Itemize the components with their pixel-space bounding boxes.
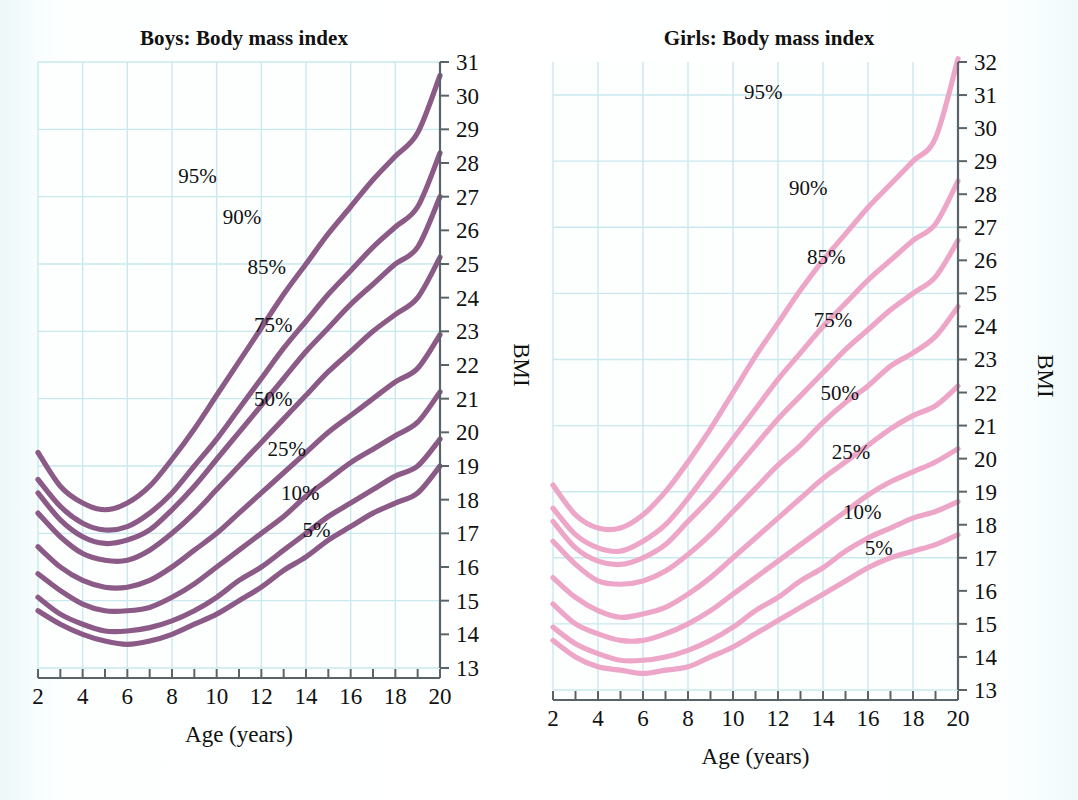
y-tick-label: 25 [456, 252, 479, 277]
percentile-label-25pct: 25% [832, 440, 871, 464]
y-tick-label: 27 [456, 185, 479, 210]
y-tick-label: 32 [974, 50, 997, 75]
x-tick-label: 14 [295, 684, 319, 709]
percentile-label-90pct: 90% [223, 205, 262, 229]
x-tick-label: 16 [339, 684, 362, 709]
x-tick-label: 4 [77, 684, 89, 709]
chart-plot-boys: 95%90%85%75%50%25%10%5%13141516171819202… [0, 0, 538, 790]
x-tick-label: 16 [857, 706, 880, 731]
percentile-label-95pct: 95% [178, 164, 217, 188]
y-axis-ticks: 1314151617181920212223242526272829303132 [958, 50, 998, 703]
percentile-label-90pct: 90% [789, 176, 828, 200]
x-tick-label: 12 [250, 684, 273, 709]
y-tick-label: 28 [974, 182, 997, 207]
y-tick-label: 15 [974, 612, 997, 637]
y-tick-label: 21 [974, 414, 997, 439]
y-tick-label: 18 [974, 513, 997, 538]
x-axis-ticks: 2468101214161820 [547, 691, 969, 731]
x-tick-label: 6 [122, 684, 134, 709]
y-tick-label: 17 [974, 546, 997, 571]
x-tick-label: 2 [547, 706, 559, 731]
y-tick-label: 30 [456, 84, 479, 109]
y-tick-label: 24 [456, 286, 480, 311]
x-axis-label: Age (years) [185, 722, 293, 747]
y-tick-label: 22 [456, 353, 479, 378]
x-tick-label: 4 [592, 706, 604, 731]
y-tick-label: 15 [456, 589, 479, 614]
x-tick-label: 20 [947, 706, 970, 731]
percentile-label-25pct: 25% [268, 437, 307, 461]
y-tick-label: 30 [974, 116, 997, 141]
percentile-label-10pct: 10% [281, 481, 320, 505]
percentile-label-75pct: 75% [814, 308, 853, 332]
y-tick-label: 23 [974, 347, 997, 372]
y-tick-label: 16 [456, 555, 479, 580]
y-tick-label: 22 [974, 381, 997, 406]
y-tick-label: 27 [974, 215, 997, 240]
y-tick-label: 14 [456, 622, 480, 647]
chart-title-girls: Girls: Body mass index [530, 26, 1008, 51]
x-tick-label: 8 [166, 684, 178, 709]
y-tick-label: 29 [456, 117, 479, 142]
x-tick-label: 12 [767, 706, 790, 731]
y-tick-label: 13 [456, 656, 479, 681]
x-tick-label: 2 [32, 684, 44, 709]
x-tick-label: 6 [637, 706, 649, 731]
y-tick-label: 24 [974, 314, 998, 339]
percentile-label-50pct: 50% [254, 387, 293, 411]
y-tick-label: 25 [974, 281, 997, 306]
y-tick-label: 20 [974, 447, 997, 472]
y-tick-label: 17 [456, 521, 479, 546]
x-tick-label: 18 [384, 684, 407, 709]
percentile-label-50pct: 50% [821, 381, 860, 405]
y-tick-label: 29 [974, 149, 997, 174]
bmi-charts-container: Boys: Body mass index 95%90%85%75%50%25%… [0, 0, 1078, 800]
chart-boys: Boys: Body mass index 95%90%85%75%50%25%… [0, 0, 538, 800]
y-tick-label: 13 [974, 678, 997, 703]
y-axis-label: BMI [1033, 354, 1058, 397]
percentile-label-85pct: 85% [247, 255, 286, 279]
x-axis-ticks: 2468101214161820 [32, 669, 451, 709]
x-tick-label: 10 [205, 684, 228, 709]
y-tick-label: 14 [974, 645, 998, 670]
y-tick-label: 26 [974, 248, 997, 273]
percentile-label-5pct: 5% [865, 536, 893, 560]
percentile-label-5pct: 5% [303, 518, 331, 542]
y-tick-label: 19 [456, 454, 479, 479]
y-tick-label: 28 [456, 151, 479, 176]
x-tick-label: 10 [722, 706, 745, 731]
plot-background [553, 62, 958, 690]
percentile-label-95pct: 95% [744, 80, 783, 104]
y-tick-label: 16 [974, 579, 997, 604]
chart-plot-girls: 95%90%85%75%50%25%10%5%13141516171819202… [520, 0, 1078, 790]
percentile-label-85pct: 85% [807, 245, 846, 269]
y-tick-label: 20 [456, 420, 479, 445]
y-tick-label: 21 [456, 387, 479, 412]
y-tick-label: 23 [456, 319, 479, 344]
percentile-label-75pct: 75% [254, 313, 293, 337]
y-tick-label: 31 [974, 83, 997, 108]
y-tick-label: 19 [974, 480, 997, 505]
chart-girls: Girls: Body mass index 95%90%85%75%50%25… [520, 0, 1078, 800]
y-axis-ticks: 13141516171819202122232425262728293031 [440, 50, 480, 681]
y-tick-label: 26 [456, 218, 479, 243]
chart-title-boys: Boys: Body mass index [10, 26, 478, 51]
y-tick-label: 18 [456, 488, 479, 513]
x-tick-label: 18 [902, 706, 925, 731]
x-axis-label: Age (years) [702, 744, 810, 769]
y-tick-label: 31 [456, 50, 479, 75]
x-tick-label: 14 [812, 706, 836, 731]
percentile-label-10pct: 10% [843, 500, 882, 524]
x-tick-label: 20 [429, 684, 452, 709]
x-tick-label: 8 [682, 706, 694, 731]
